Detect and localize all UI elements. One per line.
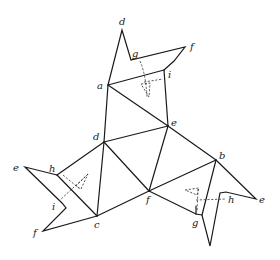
label-left-h: h (49, 163, 55, 174)
label-center-d: d (93, 131, 99, 142)
edge-c-f (97, 191, 149, 216)
top-fold-arrow-triangle (141, 83, 150, 97)
left-fold-line-1 (63, 175, 80, 189)
edge-d-c (97, 142, 104, 216)
label-left-i: i (52, 201, 55, 212)
label-c: c (94, 219, 100, 230)
label-center-e: e (171, 117, 177, 128)
top-flap (108, 30, 185, 85)
left-fold-arrow-triangle (76, 174, 88, 189)
label-top-g: g (132, 48, 138, 59)
left-flap-outline (25, 167, 97, 231)
label-left-e: e (13, 162, 19, 173)
right-fold-arrow-triangle (185, 188, 199, 195)
top-fold-line (144, 79, 163, 82)
edge-e-b (168, 126, 216, 160)
edge-d-h (57, 142, 104, 175)
edge-a-e (108, 85, 168, 126)
vertex-labels: d g f i a e d b e h i f c f g h e (13, 16, 265, 238)
edge-a-d (104, 85, 108, 142)
label-b: b (219, 150, 225, 161)
edge-b-g (202, 160, 216, 215)
edge-d-f (104, 142, 149, 191)
label-right-g: g (192, 217, 198, 228)
core-net (57, 70, 216, 216)
edge-a-i (108, 70, 164, 85)
edge-d-e (104, 126, 168, 142)
edge-h-c (57, 175, 97, 216)
edge-e-f (149, 126, 168, 191)
right-fold-line-1 (197, 189, 198, 212)
left-flap (25, 167, 97, 231)
label-top-f: f (189, 41, 196, 52)
label-top-i: i (168, 69, 171, 80)
label-top-d: d (119, 16, 125, 27)
label-right-e: e (259, 194, 265, 205)
label-right-h: h (228, 194, 234, 205)
polyhedron-net-diagram: d g f i a e d b e h i f c f g h e (0, 0, 280, 260)
right-fold-line-2 (196, 199, 226, 200)
label-left-f: f (32, 227, 39, 238)
edge-f-b (149, 160, 216, 191)
label-a: a (97, 80, 103, 91)
edge-f-g (149, 191, 196, 214)
top-flap-outline (108, 30, 185, 85)
fold-indicators (59, 61, 226, 212)
label-center-f: f (145, 194, 152, 205)
